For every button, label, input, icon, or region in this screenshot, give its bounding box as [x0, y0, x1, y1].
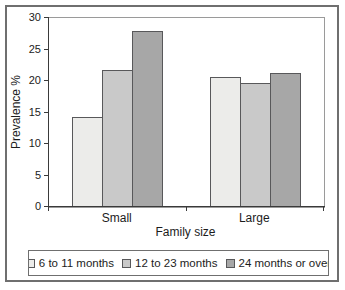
legend-item: 12 to 23 months: [122, 257, 217, 269]
category-label: Large: [186, 211, 324, 225]
legend-item: 6 to 11 months: [28, 257, 114, 269]
x-tick: [323, 207, 324, 211]
y-axis-line: [48, 17, 49, 208]
y-tick-label: 30: [13, 12, 41, 23]
bar-small-series3: [132, 31, 163, 207]
chart-screenshot: { "chart_data": { "type": "bar", "title"…: [0, 0, 345, 290]
y-tick: [44, 49, 48, 50]
y-tick-label: 5: [13, 170, 41, 181]
legend-swatch-icon: [122, 259, 131, 268]
y-tick: [44, 17, 48, 18]
y-tick: [44, 143, 48, 144]
plot-area: [48, 17, 325, 208]
y-tick-label: 25: [13, 44, 41, 55]
legend-label: 12 to 23 months: [135, 257, 217, 269]
y-tick: [44, 80, 48, 81]
bar-large-series2: [240, 83, 271, 207]
legend-item: 24 months or over: [226, 257, 329, 269]
bar-large-series1: [210, 77, 241, 207]
legend-label: 6 to 11 months: [39, 257, 114, 269]
y-tick-label: 0: [13, 201, 41, 212]
bar-small-series1: [72, 117, 103, 207]
legend-swatch-icon: [226, 259, 235, 268]
y-tick: [44, 112, 48, 113]
legend-swatch-icon: [28, 259, 35, 268]
legend: 6 to 11 months12 to 23 months24 months o…: [28, 250, 329, 276]
y-tick-label: 10: [13, 138, 41, 149]
y-tick: [44, 175, 48, 176]
bar-large-series3: [270, 73, 301, 207]
bar-small-series2: [102, 70, 133, 207]
x-axis-line: [48, 206, 325, 207]
x-axis-title: Family size: [48, 225, 323, 239]
legend-label: 24 months or over: [239, 257, 329, 269]
y-tick-label: 15: [13, 107, 41, 118]
y-tick-label: 20: [13, 75, 41, 86]
chart-frame: Prevalence % 051015202530 SmallLarge Fam…: [5, 5, 339, 282]
category-label: Small: [48, 211, 186, 225]
